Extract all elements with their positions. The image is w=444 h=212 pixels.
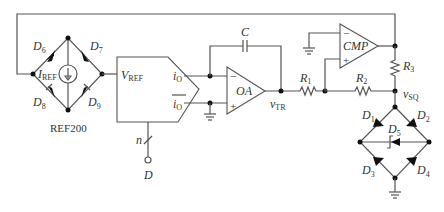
label-d9: D9 [87,95,101,111]
label-vtr: vTR [270,97,286,112]
label-io: iO [173,69,182,84]
label-r1: R1 [299,71,311,86]
cmp-plus: + [343,54,349,66]
resistor-r1-icon [300,87,325,95]
cmp-minus: − [343,27,349,39]
label-d6: D6 [32,39,46,55]
label-n: n [136,133,142,147]
label-d5: D5 [387,122,401,138]
label-vsq: vSQ [403,87,419,102]
label-d4: D4 [416,163,430,179]
label-ref200: REF200 [50,122,87,134]
label-d2: D2 [416,108,430,124]
label-vref: VREF [121,68,144,83]
label-d: D [143,168,153,182]
zener-d5-icon [391,138,400,146]
resistor-r2-icon [325,87,395,95]
oa-plus: + [230,100,236,112]
diode-d7-icon [81,50,89,62]
digital-input-terminal [145,157,151,163]
label-d1: D1 [361,108,375,124]
label-c: C [241,25,250,39]
label-oa: OA [236,84,253,98]
ground-icon [303,48,315,54]
label-r2: R2 [355,71,367,86]
diode-d6-icon [46,50,55,62]
label-d7: D7 [89,39,103,55]
ground-icon [204,114,216,120]
label-r3: R3 [402,59,414,74]
resistor-r3-icon [391,46,399,91]
label-iref: IREF [37,67,57,82]
ground-icon [389,192,401,198]
oa-minus: − [230,70,236,82]
label-io-bar: iO [173,97,182,112]
dac-block [117,57,199,122]
circuit-diagram: D6 D7 D8 D9 IREF REF200 VREF iO iO n D C… [0,0,444,212]
label-d8: D8 [32,95,46,111]
label-cmp: CMP [343,39,369,53]
label-d3: D3 [361,163,375,179]
capacitor-icon [243,40,247,52]
